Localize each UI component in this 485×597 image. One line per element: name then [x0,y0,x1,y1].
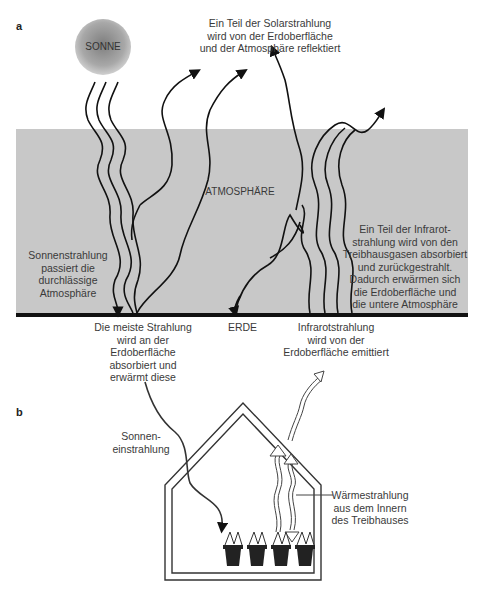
solar-in-arrow [145,382,222,528]
passes-text: Sonnenstrahlung passiert die durchlässig… [18,249,118,299]
earth-label: ERDE [220,321,265,334]
heat-text: Wärmestrahlung aus dem Innern des Treibh… [330,489,410,527]
plant-pots [223,532,315,566]
panel-a-label: a [16,20,22,32]
sun-label: SONNE [80,41,126,54]
solar-in-text: Sonnen- einstrahlung [106,430,176,455]
emitted-text: Infrarotstrahlung wird von der Erdoberfl… [276,321,396,359]
greenhouse-gas-text: Ein Teil der Infrarot- strahlung wird vo… [340,223,470,311]
absorbed-text: Die meiste Strahlung wird an der Erdober… [88,321,198,384]
panel-b-label: b [16,406,23,418]
earth-surface-line [16,313,468,317]
heat-arrows [270,371,333,542]
atmosphere-label: ATMOSPHÄRE [205,186,275,199]
reflected-text: Ein Teil der Solarstrahlung wird von der… [180,17,360,55]
